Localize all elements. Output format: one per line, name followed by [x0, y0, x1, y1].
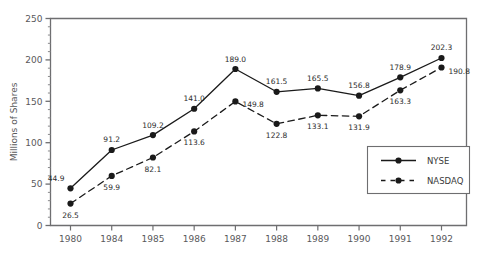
y-tick-label: 250: [25, 14, 42, 24]
data-label-nasdaq-1989: 133.1: [307, 122, 329, 131]
data-label-nyse-1987: 189.0: [225, 55, 247, 64]
data-label-nasdaq-1984: 59.9: [103, 183, 120, 192]
data-point-nasdaq-1988: [274, 121, 280, 127]
data-point-nyse-1987: [232, 66, 238, 72]
data-point-nyse-1985: [150, 132, 156, 138]
x-tick-label: 1988: [265, 234, 288, 244]
data-point-nasdaq-1992: [438, 64, 444, 70]
data-point-nasdaq-1987: [232, 98, 238, 104]
data-label-nasdaq-1991: 163.3: [390, 97, 412, 106]
x-tick-label: 1990: [348, 234, 371, 244]
y-tick-label: 150: [25, 97, 42, 107]
data-label-nasdaq-1992: 190.8: [449, 67, 471, 76]
data-point-nasdaq-1980: [67, 200, 73, 206]
data-label-nyse-1991: 178.9: [390, 63, 412, 72]
y-tick-label: 0: [37, 221, 43, 231]
data-label-nasdaq-1980: 26.5: [62, 211, 79, 220]
data-point-nasdaq-1984: [109, 173, 115, 179]
x-tick-label: 1984: [100, 234, 123, 244]
data-point-nyse-1986: [191, 106, 197, 112]
data-label-nasdaq-1987: 149.8: [242, 100, 264, 109]
data-point-nasdaq-1986: [191, 128, 197, 134]
x-tick-label: 1980: [59, 234, 82, 244]
data-label-nyse-1988: 161.5: [266, 77, 288, 86]
legend-label-nyse[interactable]: NYSE: [427, 156, 449, 166]
data-label-nyse-1985: 109.2: [142, 121, 164, 130]
legend-label-nasdaq[interactable]: NASDAQ: [427, 176, 464, 186]
x-tick-label: 1992: [430, 234, 453, 244]
chart-container: 050100150200250 198019841985198619871988…: [0, 0, 480, 256]
chart-legend: NYSENASDAQ: [368, 147, 470, 194]
legend-box: [368, 147, 470, 194]
data-label-nasdaq-1986: 113.6: [183, 138, 205, 147]
x-tick-label: 1987: [224, 234, 247, 244]
line-chart: 050100150200250 198019841985198619871988…: [0, 0, 480, 256]
data-point-nyse-1990: [356, 93, 362, 99]
data-point-nasdaq-1989: [315, 112, 321, 118]
y-axis-title: Millions of Shares: [9, 82, 19, 161]
y-tick-label: 100: [25, 138, 42, 148]
legend-marker-nasdaq: [395, 177, 401, 183]
data-point-nyse-1980: [67, 185, 73, 191]
data-label-nasdaq-1990: 131.9: [348, 123, 370, 132]
x-tick-label: 1985: [141, 234, 164, 244]
data-label-nyse-1980: 44.9: [48, 174, 65, 183]
x-tick-label: 1986: [183, 234, 206, 244]
y-tick-label: 50: [31, 179, 43, 189]
data-point-nyse-1989: [315, 85, 321, 91]
data-label-nyse-1986: 141.0: [183, 94, 205, 103]
data-point-nasdaq-1991: [397, 87, 403, 93]
data-point-nyse-1991: [397, 74, 403, 80]
data-label-nyse-1984: 91.2: [103, 135, 120, 144]
data-label-nyse-1992: 202.3: [431, 43, 453, 52]
x-tick-label: 1989: [306, 234, 329, 244]
x-tick-label: 1991: [389, 234, 412, 244]
data-label-nasdaq-1988: 122.8: [266, 131, 288, 140]
data-point-nasdaq-1990: [356, 113, 362, 119]
data-point-nyse-1988: [274, 89, 280, 95]
y-tick-label: 200: [25, 55, 42, 65]
data-point-nasdaq-1985: [150, 154, 156, 160]
data-point-nyse-1992: [438, 55, 444, 61]
data-label-nyse-1990: 156.8: [348, 81, 370, 90]
data-label-nasdaq-1985: 82.1: [145, 165, 162, 174]
legend-marker-nyse: [395, 157, 401, 163]
data-point-nyse-1984: [109, 147, 115, 153]
data-label-nyse-1989: 165.5: [307, 74, 329, 83]
